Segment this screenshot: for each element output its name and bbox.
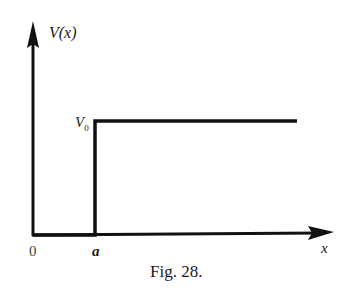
potential-step-diagram bbox=[0, 0, 346, 300]
step-height-label-sub: 0 bbox=[84, 123, 89, 133]
x-axis-label: x bbox=[321, 240, 328, 257]
y-axis-arrow-icon bbox=[27, 21, 39, 48]
step-height-label-main: V bbox=[75, 114, 84, 130]
step-position-label: a bbox=[92, 243, 100, 260]
figure-caption: Fig. 28. bbox=[150, 262, 202, 282]
y-axis-label: V(x) bbox=[49, 24, 77, 42]
potential-curve bbox=[33, 121, 297, 235]
step-height-label: V0 bbox=[75, 114, 89, 133]
origin-label: 0 bbox=[29, 243, 37, 260]
